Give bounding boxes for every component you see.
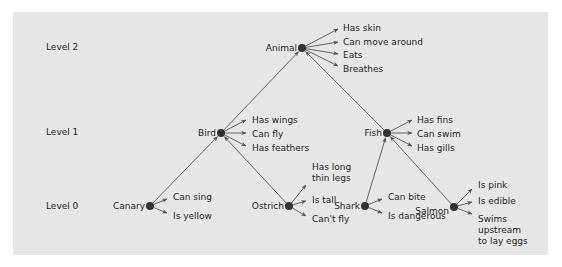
property-label: Has fins bbox=[417, 115, 453, 125]
property-arrow bbox=[306, 29, 338, 46]
property-label: Can swim bbox=[417, 129, 461, 139]
level-label: Level 2 bbox=[46, 42, 78, 52]
level-labels: Level 2Level 1Level 0 bbox=[46, 42, 79, 211]
property-arrow bbox=[391, 120, 412, 131]
ostrich-node-dot bbox=[285, 202, 293, 210]
property-label: thin legs bbox=[312, 173, 351, 183]
property-label: Has skin bbox=[343, 23, 381, 33]
property-label: Can fly bbox=[252, 129, 284, 139]
property-arrow bbox=[457, 189, 472, 204]
fish-node-dot bbox=[383, 129, 391, 137]
property-arrow bbox=[306, 49, 338, 54]
salmon-node-dot bbox=[450, 203, 458, 211]
property-label: Breathes bbox=[343, 64, 383, 74]
property-arrow bbox=[293, 201, 306, 205]
property-label: Is yellow bbox=[173, 211, 212, 221]
property-label: Eats bbox=[343, 50, 363, 60]
property-arrow bbox=[369, 208, 382, 213]
property-label: Can't fly bbox=[312, 214, 350, 224]
property-arrow bbox=[154, 208, 167, 213]
shark-node-label: Shark bbox=[334, 201, 361, 211]
property-label: Has feathers bbox=[252, 143, 310, 153]
shark-node-dot bbox=[361, 202, 369, 210]
property-label: Has wings bbox=[252, 115, 298, 125]
fish-node-label: Fish bbox=[365, 128, 382, 138]
ostrich-node-label: Ostrich bbox=[252, 201, 284, 211]
property-label: Can move around bbox=[343, 37, 423, 47]
property-label: to lay eggs bbox=[478, 236, 528, 246]
level-label: Level 0 bbox=[46, 201, 79, 211]
property-label: Can bite bbox=[388, 192, 426, 202]
property-label: upstream bbox=[478, 225, 521, 235]
property-arrow bbox=[458, 208, 472, 214]
concept-nodes: AnimalBirdFishCanaryOstrichSharkSalmon bbox=[113, 43, 458, 216]
salmon-node-label: Salmon bbox=[415, 206, 449, 216]
canary-node-dot bbox=[146, 202, 154, 210]
property-label: Is edible bbox=[478, 196, 516, 206]
property-label: Swims bbox=[478, 214, 507, 224]
property-arrow bbox=[369, 199, 382, 204]
animal-node-dot bbox=[298, 44, 306, 52]
isa-link-shark-to-fish bbox=[366, 138, 385, 202]
property-arrow bbox=[306, 50, 338, 66]
property-label: Is pink bbox=[478, 180, 508, 190]
bird-node-dot bbox=[217, 129, 225, 137]
animal-node-label: Animal bbox=[266, 43, 297, 53]
canary-node-label: Canary bbox=[113, 201, 146, 211]
property-label: Can sing bbox=[173, 192, 212, 202]
property-arrow bbox=[458, 202, 472, 206]
property-label: Has long bbox=[312, 162, 351, 172]
property-label: Has gills bbox=[417, 143, 455, 153]
bird-node-label: Bird bbox=[198, 128, 216, 138]
property-arrow bbox=[292, 208, 306, 216]
property-label: Is tall bbox=[312, 195, 336, 205]
property-arrow bbox=[306, 42, 338, 47]
level-label: Level 1 bbox=[46, 127, 78, 137]
semantic-network-diagram: Level 2Level 1Level 0 Has skinCan move a… bbox=[0, 0, 562, 267]
property-arrow bbox=[292, 185, 306, 203]
